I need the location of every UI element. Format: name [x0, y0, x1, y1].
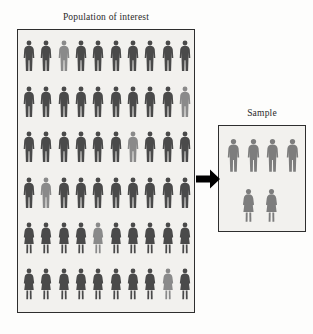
- male-person-silhouette-icon: [265, 133, 280, 178]
- population-figure-row: [22, 81, 192, 123]
- sample-figure-row: [226, 132, 300, 178]
- male-person-silhouette-icon: [126, 126, 140, 168]
- female-person-silhouette-icon: [126, 217, 140, 259]
- male-person-silhouette-icon: [143, 126, 157, 168]
- male-person-silhouette-icon: [161, 81, 175, 123]
- male-person-silhouette-icon: [74, 35, 88, 77]
- male-person-silhouette-icon: [109, 126, 123, 168]
- male-person-silhouette-icon: [178, 35, 192, 77]
- male-person-silhouette-icon: [91, 126, 105, 168]
- female-person-silhouette-icon: [126, 263, 140, 305]
- male-person-silhouette-icon: [126, 35, 140, 77]
- female-person-silhouette-icon: [143, 263, 157, 305]
- female-person-silhouette-icon: [22, 217, 36, 259]
- male-person-silhouette-icon: [57, 35, 71, 77]
- female-person-silhouette-icon: [74, 263, 88, 305]
- female-person-silhouette-icon: [39, 217, 53, 259]
- male-person-silhouette-icon: [74, 81, 88, 123]
- male-person-silhouette-icon: [246, 133, 261, 178]
- male-person-silhouette-icon: [74, 172, 88, 214]
- male-person-silhouette-icon: [57, 81, 71, 123]
- male-person-silhouette-icon: [22, 81, 36, 123]
- female-person-silhouette-icon: [91, 217, 105, 259]
- male-person-silhouette-icon: [39, 126, 53, 168]
- male-person-silhouette-icon: [39, 172, 53, 214]
- female-person-silhouette-icon: [109, 263, 123, 305]
- female-person-silhouette-icon: [91, 263, 105, 305]
- male-person-silhouette-icon: [109, 35, 123, 77]
- male-person-silhouette-icon: [22, 126, 36, 168]
- sample-title: Sample: [218, 108, 306, 118]
- female-person-silhouette-icon: [57, 263, 71, 305]
- female-person-silhouette-icon: [264, 183, 279, 228]
- male-person-silhouette-icon: [22, 35, 36, 77]
- male-person-silhouette-icon: [285, 133, 300, 178]
- male-person-silhouette-icon: [91, 35, 105, 77]
- male-person-silhouette-icon: [178, 81, 192, 123]
- female-person-silhouette-icon: [161, 263, 175, 305]
- male-person-silhouette-icon: [39, 35, 53, 77]
- female-person-silhouette-icon: [57, 217, 71, 259]
- male-person-silhouette-icon: [143, 35, 157, 77]
- male-person-silhouette-icon: [57, 126, 71, 168]
- female-person-silhouette-icon: [178, 263, 192, 305]
- male-person-silhouette-icon: [109, 81, 123, 123]
- population-of-interest-box: [17, 29, 195, 313]
- female-person-silhouette-icon: [22, 263, 36, 305]
- sample-box: [218, 125, 306, 232]
- male-person-silhouette-icon: [178, 172, 192, 214]
- population-figure-row: [22, 172, 192, 214]
- sample-figure-row: [241, 182, 279, 228]
- male-person-silhouette-icon: [74, 126, 88, 168]
- male-person-silhouette-icon: [91, 172, 105, 214]
- population-title: Population of interest: [17, 12, 195, 22]
- male-person-silhouette-icon: [143, 81, 157, 123]
- population-figure-row: [22, 126, 192, 168]
- male-person-silhouette-icon: [91, 81, 105, 123]
- female-person-silhouette-icon: [178, 217, 192, 259]
- male-person-silhouette-icon: [39, 81, 53, 123]
- female-person-silhouette-icon: [241, 183, 256, 228]
- population-figure-row: [22, 217, 192, 259]
- male-person-silhouette-icon: [57, 172, 71, 214]
- male-person-silhouette-icon: [161, 35, 175, 77]
- female-person-silhouette-icon: [143, 217, 157, 259]
- female-person-silhouette-icon: [74, 217, 88, 259]
- male-person-silhouette-icon: [126, 172, 140, 214]
- male-person-silhouette-icon: [109, 172, 123, 214]
- male-person-silhouette-icon: [126, 81, 140, 123]
- population-figure-row: [22, 35, 192, 77]
- male-person-silhouette-icon: [178, 126, 192, 168]
- arrow-right-icon: [196, 168, 220, 190]
- male-person-silhouette-icon: [22, 172, 36, 214]
- female-person-silhouette-icon: [109, 217, 123, 259]
- female-person-silhouette-icon: [161, 217, 175, 259]
- population-figure-row: [22, 263, 192, 305]
- male-person-silhouette-icon: [161, 126, 175, 168]
- male-person-silhouette-icon: [226, 133, 241, 178]
- male-person-silhouette-icon: [143, 172, 157, 214]
- male-person-silhouette-icon: [161, 172, 175, 214]
- female-person-silhouette-icon: [39, 263, 53, 305]
